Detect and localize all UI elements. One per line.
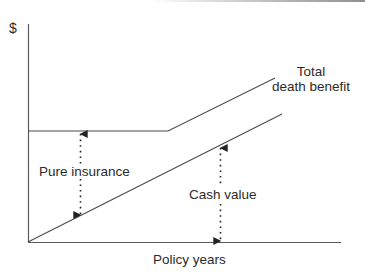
x-axis-label: Policy years xyxy=(153,252,226,267)
total-death-benefit-label-line1: Total xyxy=(270,64,352,79)
total-death-benefit-label-line2: death benefit xyxy=(270,79,352,94)
y-axis-label: $ xyxy=(9,21,17,36)
total-death-benefit-label: Total death benefit xyxy=(270,64,352,94)
insurance-diagram xyxy=(0,0,365,280)
cash-value-label: Cash value xyxy=(188,187,258,202)
pure-insurance-label: Pure insurance xyxy=(38,164,131,179)
total-death-benefit-line xyxy=(28,78,275,131)
